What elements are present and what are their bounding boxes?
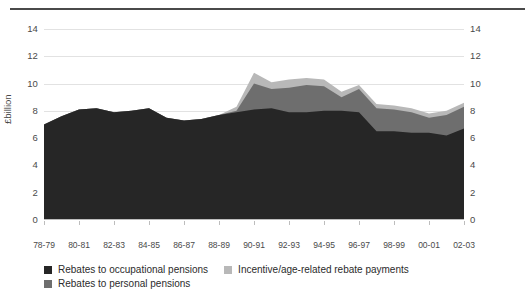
chart-legend: Rebates to occupational pensions Incenti… — [44, 264, 514, 292]
legend-item-incentive: Incentive/age-related rebate payments — [224, 264, 409, 275]
y-tick-label-right-4: 4 — [470, 160, 486, 170]
legend-item-personal: Rebates to personal pensions — [44, 278, 190, 289]
x-tick-label-92-93: 92-93 — [269, 240, 309, 250]
y-tick-label-right-2: 2 — [470, 188, 486, 198]
legend-swatch-incentive — [224, 266, 232, 274]
x-tick-label-84-85: 84-85 — [129, 240, 169, 250]
legend-row-2: Rebates to personal pensions — [44, 278, 514, 289]
y-tick-label-left-10: 10 — [24, 79, 38, 89]
y-tick-label-right-14: 14 — [470, 24, 486, 34]
y-tick-label-right-0: 0 — [470, 215, 486, 225]
y-tick-label-left-0: 0 — [24, 215, 38, 225]
y-tick-label-right-10: 10 — [470, 79, 486, 89]
x-tick-mark — [289, 221, 290, 225]
x-tick-mark — [394, 221, 395, 225]
x-tick-label-94-95: 94-95 — [304, 240, 344, 250]
x-tick-mark — [429, 221, 430, 225]
legend-swatch-personal — [44, 280, 52, 288]
x-tick-label-78-79: 78-79 — [24, 240, 64, 250]
x-tick-mark — [149, 221, 150, 225]
x-tick-label-86-87: 86-87 — [164, 240, 204, 250]
plot-area — [44, 29, 464, 220]
y-tick-label-right-6: 6 — [470, 133, 486, 143]
y-tick-label-left-2: 2 — [24, 188, 38, 198]
y-tick-label-left-8: 8 — [24, 106, 38, 116]
y-axis-title: £billion — [2, 94, 13, 124]
x-tick-mark — [464, 221, 465, 225]
x-tick-mark — [359, 221, 360, 225]
chart-figure: £billion 02468101214 02468101214 78-7980… — [0, 0, 531, 303]
x-tick-mark — [219, 221, 220, 225]
x-axis-baseline — [44, 219, 464, 220]
legend-swatch-occupational — [44, 266, 52, 274]
x-tick-label-00-01: 00-01 — [409, 240, 449, 250]
x-tick-mark — [184, 221, 185, 225]
top-divider-rule — [10, 8, 525, 10]
x-tick-mark — [79, 221, 80, 225]
legend-label-incentive: Incentive/age-related rebate payments — [238, 264, 409, 275]
x-tick-label-98-99: 98-99 — [374, 240, 414, 250]
y-tick-label-left-6: 6 — [24, 133, 38, 143]
y-tick-label-left-12: 12 — [24, 51, 38, 61]
legend-item-occupational: Rebates to occupational pensions — [44, 264, 208, 275]
legend-label-occupational: Rebates to occupational pensions — [58, 264, 208, 275]
legend-row-1: Rebates to occupational pensions Incenti… — [44, 264, 514, 275]
x-tick-label-82-83: 82-83 — [94, 240, 134, 250]
x-tick-label-90-91: 90-91 — [234, 240, 274, 250]
y-tick-label-left-4: 4 — [24, 160, 38, 170]
x-tick-mark — [254, 221, 255, 225]
x-tick-label-96-97: 96-97 — [339, 240, 379, 250]
x-tick-mark — [114, 221, 115, 225]
stacked-area-series — [44, 29, 464, 220]
x-tick-mark — [324, 221, 325, 225]
x-tick-label-80-81: 80-81 — [59, 240, 99, 250]
y-tick-label-left-14: 14 — [24, 24, 38, 34]
y-tick-label-right-12: 12 — [470, 51, 486, 61]
legend-label-personal: Rebates to personal pensions — [58, 278, 190, 289]
x-tick-mark — [44, 221, 45, 225]
x-tick-label-02-03: 02-03 — [444, 240, 484, 250]
x-tick-label-88-89: 88-89 — [199, 240, 239, 250]
y-tick-label-right-8: 8 — [470, 106, 486, 116]
